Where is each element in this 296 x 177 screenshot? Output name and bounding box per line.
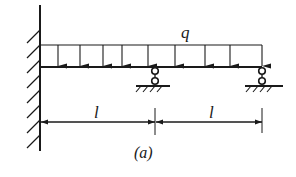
dimension-lines [41,108,262,135]
distributed-load [40,45,262,66]
fixed-wall [27,5,40,151]
load-label: q [181,23,190,42]
beam-diagram: q l l ( [0,0,296,177]
right-roller-support [245,68,283,92]
middle-roller-support [136,68,170,92]
figure-caption: (a) [134,144,153,162]
wall-hatching [27,30,40,148]
span-label-2: l [209,103,214,122]
span-label-1: l [94,103,99,122]
